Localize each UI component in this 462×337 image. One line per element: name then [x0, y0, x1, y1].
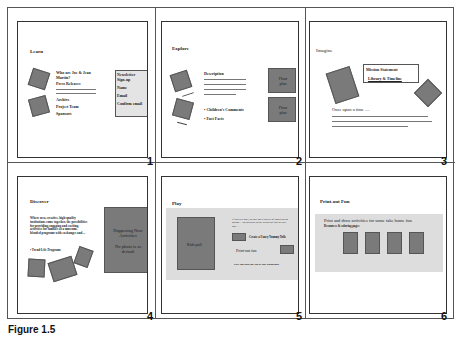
divider [56, 93, 96, 94]
slide-number: 3 [441, 155, 447, 167]
printout-subheading[interactable]: Resources & coloring pages [324, 224, 359, 229]
slide-printout-fun: Print-out Fun Print and draw activities … [309, 176, 447, 314]
printout-card[interactable] [409, 232, 424, 254]
printout-card[interactable] [387, 232, 402, 254]
newsletter-signup-box: Newsletter Sign-up Name Email Confirm em… [115, 70, 148, 117]
play-intro-text: If this is a poll, to vote on a variety … [232, 218, 290, 228]
slide-title: Imagine [316, 48, 332, 53]
nav-link[interactable]: Sponsors [56, 111, 72, 116]
game-thumbnail[interactable] [232, 233, 246, 241]
text-line [332, 126, 408, 127]
text-line [332, 121, 432, 122]
grid-divider-vertical-1 [155, 7, 156, 319]
text-line [204, 79, 246, 80]
slide-number: 2 [296, 155, 302, 167]
photo-placeholder [28, 259, 46, 278]
newsletter-heading: Newsletter Sign-up [117, 72, 145, 82]
photo-placeholder [172, 98, 194, 120]
photo-placeholder [414, 79, 442, 107]
photo-placeholder [73, 246, 93, 268]
text-line [204, 89, 246, 90]
slide-title: Learn [30, 49, 43, 54]
printout-heading: Print and draw activities for some take … [324, 218, 412, 223]
text-line [204, 94, 236, 95]
slide-title: Discover [30, 199, 49, 204]
slide-title: Play [172, 201, 181, 206]
slide-number: 5 [296, 310, 302, 322]
slide-title: Explore [172, 46, 189, 51]
newsletter-field-email[interactable]: Email [117, 93, 127, 98]
floor-plan-button[interactable]: Floor plan [268, 97, 296, 122]
kids-poll-label: Kids poll [187, 242, 202, 247]
story-label: Once upon a time .... [332, 107, 370, 112]
slide-title: Print-out Fun [320, 199, 350, 204]
bullet-link[interactable]: • Fast Facts [204, 116, 224, 121]
floor-plan-label: Floor plan [275, 105, 291, 115]
slide-play: Play Kids poll If this is a poll, to vot… [161, 176, 299, 314]
printout-card[interactable] [343, 232, 358, 254]
slide-number: 6 [441, 310, 447, 322]
nav-link[interactable]: Project Team [56, 104, 79, 109]
photo-caption-line [182, 92, 194, 97]
mission-box: Mission Statement Library & Timeline [363, 64, 419, 83]
newsletter-field-confirm-email[interactable]: Confirm email [117, 101, 142, 106]
printout-thumbnail[interactable] [280, 245, 294, 254]
happening-now-label: Happening Now Activities [109, 228, 147, 238]
floor-plan-button[interactable]: Floor plan [268, 68, 296, 93]
library-timeline-link[interactable]: Library & Timeline [368, 76, 402, 81]
divider [56, 89, 96, 90]
grid-divider-horizontal [7, 162, 455, 163]
description-label: Description [204, 71, 224, 76]
slide-imagine: Imagine Mission Statement Library & Time… [309, 21, 447, 158]
photo-placeholder [170, 70, 193, 93]
printout-link[interactable]: Print-out fun [236, 248, 257, 253]
bullet-link[interactable]: • Children's Comments [204, 107, 244, 112]
figure-caption: Figure 1.5 [8, 324, 55, 335]
slide-discover: Discover Where new, creative, high-quali… [17, 176, 148, 314]
newsletter-field-name[interactable]: Name [117, 85, 127, 90]
floor-plan-label: Floor plan [275, 76, 291, 86]
slide-number: 1 [147, 155, 153, 167]
printout-card[interactable] [365, 232, 380, 254]
text-line [204, 84, 246, 85]
game-link[interactable]: Create a Fancy Yummy Yolk [249, 235, 286, 240]
slide-learn: Learn Who are Joe & Jean Martin? Press R… [17, 21, 148, 158]
nav-link[interactable]: Who are Joe & Jean Martin? [56, 70, 96, 80]
default-photo-note: No photo is as default [111, 244, 145, 254]
photo-caption-line [177, 122, 187, 126]
photo-placeholder [326, 66, 360, 104]
footer-link[interactable]: Play dig into the Tip of the Woodland [234, 262, 279, 267]
trend-link[interactable]: • Trend-Life Programs [30, 248, 61, 253]
photo-placeholder [28, 68, 51, 91]
text-line [332, 116, 428, 117]
grid-divider-vertical-2 [305, 7, 306, 319]
photo-placeholder [28, 95, 50, 117]
mission-statement-link[interactable]: Mission Statement [366, 67, 398, 72]
kids-poll-panel[interactable]: Kids poll [177, 217, 215, 270]
happening-now-panel[interactable]: Happening Now Activities No photo is as … [104, 207, 148, 273]
nav-link[interactable]: Archive [56, 97, 69, 102]
nav-link[interactable]: Press Releases [56, 81, 80, 86]
body-text: Where new, creative, high-quality instit… [30, 217, 88, 236]
slide-explore: Explore Description • Children's Comment… [161, 21, 299, 158]
slide-number: 4 [147, 310, 153, 322]
photo-placeholder [48, 256, 78, 283]
